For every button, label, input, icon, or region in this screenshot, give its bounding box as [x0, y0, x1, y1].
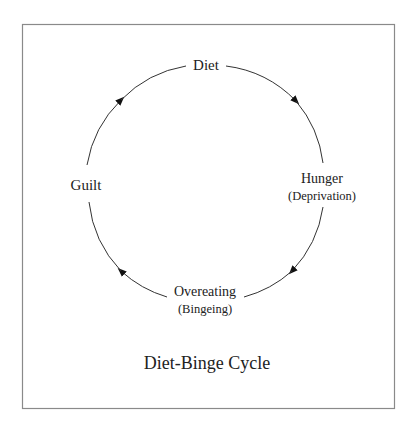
- node-diet: Diet: [193, 57, 220, 73]
- node-hunger-sublabel: (Deprivation): [288, 189, 356, 203]
- node-overeating-sublabel: (Bingeing): [178, 302, 232, 316]
- arc-overeating-to-guilt-tail: [89, 202, 121, 271]
- arrow-hunger-to-overeating: [292, 207, 323, 271]
- arc-hunger-to-overeating-tail: [244, 271, 292, 297]
- frame-border: [23, 25, 395, 409]
- diagram-title: Diet-Binge Cycle: [144, 353, 270, 373]
- arc-guilt-to-diet-tail: [121, 66, 186, 100]
- arrow-guilt-to-diet: [87, 100, 121, 165]
- arrow-overeating-to-guilt: [121, 271, 167, 297]
- arrow-diet-to-hunger: [226, 66, 296, 101]
- node-overeating: Overeating: [174, 284, 236, 299]
- arc-diet-to-hunger-tail: [296, 101, 323, 163]
- node-guilt: Guilt: [71, 177, 103, 193]
- diet-binge-cycle-diagram: Diet Hunger (Deprivation) Overeating (Bi…: [0, 0, 413, 431]
- node-hunger: Hunger: [301, 171, 343, 186]
